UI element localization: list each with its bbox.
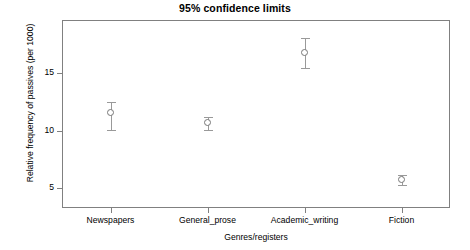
error-bar-lower-cap [204, 130, 213, 131]
x-tick-label-fiction: Fiction [332, 215, 470, 225]
x-axis-title: Genres/registers [62, 232, 450, 242]
error-bar-upper-cap [204, 117, 213, 118]
mean-marker [301, 49, 308, 56]
x-tick-mark [305, 208, 306, 213]
y-tick-label-text: 15 [14, 68, 54, 77]
error-bar-upper-cap [301, 38, 310, 39]
y-axis-title-text: Relative frequency of passives (per 1000… [22, 0, 38, 228]
mean-marker [107, 109, 114, 116]
confidence-limits-chart: 95% confidence limits Relative frequency… [0, 0, 470, 250]
y-tick-label: 5 [10, 183, 54, 193]
plot-frame [62, 20, 450, 208]
error-bar-upper-cap [107, 102, 116, 103]
error-bar-lower-cap [398, 185, 407, 186]
x-tick-mark [208, 208, 209, 213]
y-tick-mark [57, 73, 62, 74]
y-tick-mark [57, 188, 62, 189]
y-axis-title: Relative frequency of passives (per 1000… [22, 0, 38, 228]
mean-marker [398, 176, 405, 183]
x-tick-mark [402, 208, 403, 213]
error-bar-lower-cap [107, 130, 116, 131]
error-bar-lower-cap [301, 68, 310, 69]
x-tick-mark [111, 208, 112, 213]
y-tick-label-text: 10 [14, 126, 54, 135]
y-tick-label: 10 [10, 126, 54, 136]
mean-marker [204, 119, 211, 126]
y-tick-label-text: 5 [14, 183, 54, 192]
y-tick-mark [57, 131, 62, 132]
chart-title: 95% confidence limits [0, 2, 470, 14]
y-tick-label: 15 [10, 68, 54, 78]
